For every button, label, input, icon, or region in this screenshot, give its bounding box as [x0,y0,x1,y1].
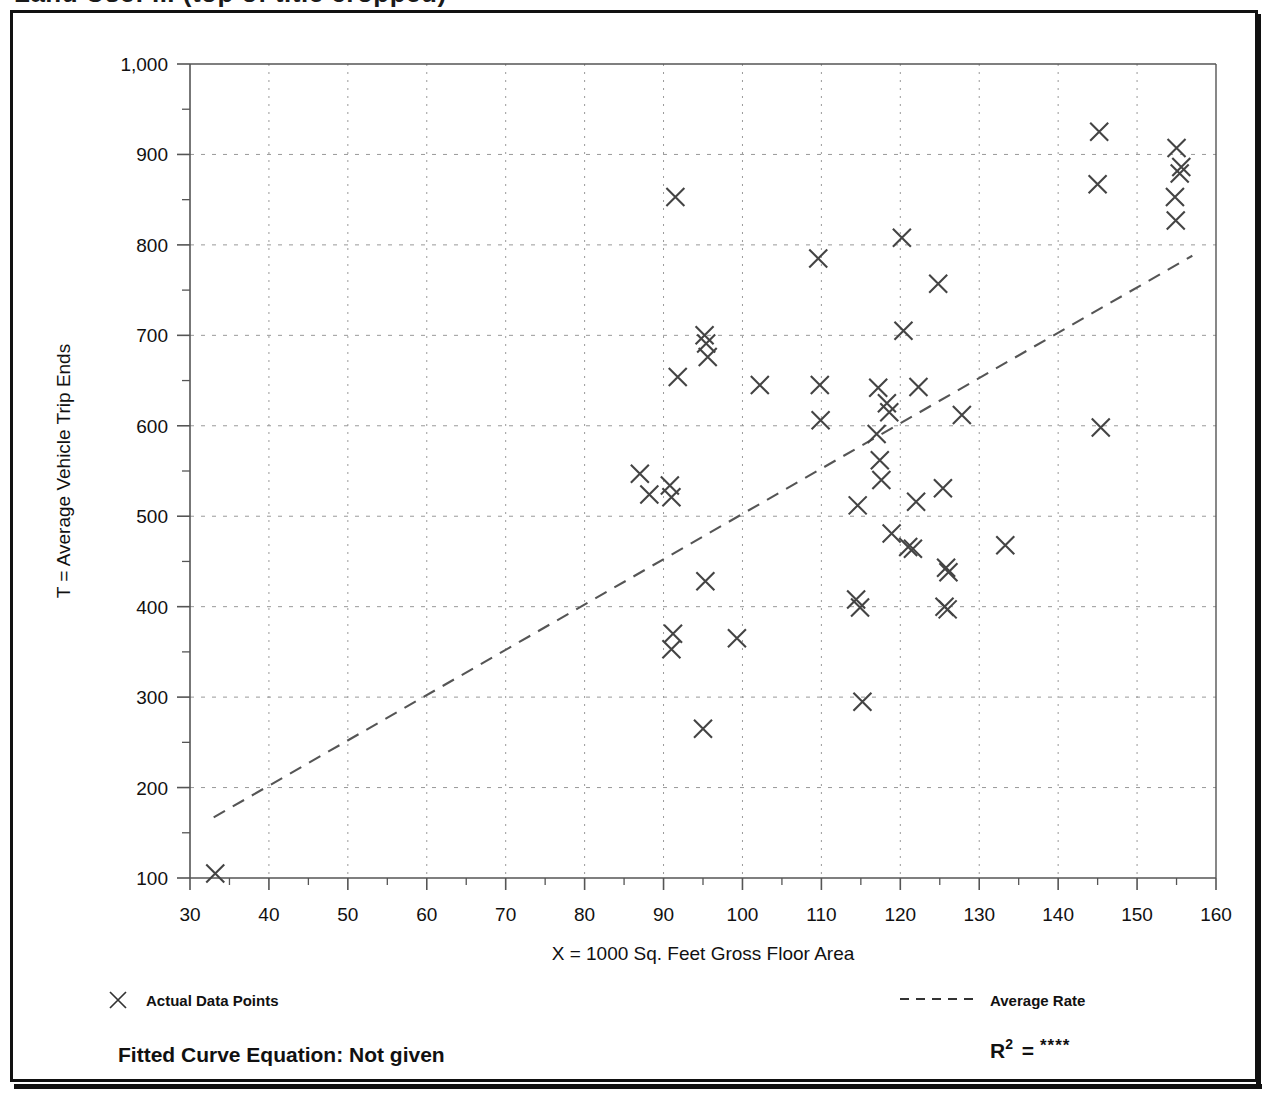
data-point-marker [1090,123,1108,141]
data-point-marker [929,275,947,293]
data-point-marker [1092,419,1110,437]
data-point-marker [1166,188,1184,206]
legend-label-actual-data-points: Actual Data Points [146,992,279,1009]
y-axis-ticks: 1002003004005006007008009001,000 [120,54,190,889]
data-point-marker [669,368,687,386]
y-tick-label: 400 [136,597,168,618]
legend-label-average-rate: Average Rate [990,992,1085,1009]
y-tick-label: 900 [136,144,168,165]
x-tick-label: 110 [806,904,836,925]
data-point-marker [996,536,1014,554]
footer: Fitted Curve Equation: Not givenR2 = ***… [118,1036,1070,1066]
data-point-marker [812,411,830,429]
data-point-marker [893,229,911,247]
fitted-curve-equation: Fitted Curve Equation: Not given [118,1043,445,1066]
data-point-marker [849,496,867,514]
data-point-marker [871,451,889,469]
data-point-marker [853,693,871,711]
y-tick-label: 100 [136,868,168,889]
scatter-chart: 1002003004005006007008009001,00030405060… [0,0,1274,1102]
legend-x-marker-icon [110,992,126,1008]
data-point-marker [1089,175,1107,193]
y-tick-label: 600 [136,416,168,437]
data-point-marker [662,488,680,506]
data-points [206,123,1190,883]
y-axis-title: T = Average Vehicle Trip Ends [53,344,74,598]
x-tick-label: 140 [1042,904,1074,925]
y-tick-label: 500 [136,506,168,527]
plot-container: 1002003004005006007008009001,00030405060… [0,0,1274,1102]
x-tick-label: 160 [1200,904,1232,925]
data-point-marker [206,864,224,882]
data-point-marker [809,249,827,267]
legend: Actual Data PointsAverage Rate [110,992,1085,1009]
x-tick-label: 130 [963,904,995,925]
x-tick-label: 70 [495,904,516,925]
data-point-marker [1171,164,1189,182]
data-point-marker [1168,139,1186,157]
x-axis-title: X = 1000 Sq. Feet Gross Floor Area [552,943,855,964]
x-tick-label: 40 [258,904,279,925]
axis-titles: X = 1000 Sq. Feet Gross Floor AreaT = Av… [53,344,855,964]
data-point-marker [1167,211,1185,229]
data-point-marker [811,376,829,394]
plot-axes [190,64,1216,878]
x-axis-ticks: 30405060708090100110120130140150160 [179,878,1231,925]
data-point-marker [934,479,952,497]
data-point-marker [872,471,890,489]
x-tick-label: 90 [653,904,674,925]
data-point-marker [696,572,714,590]
data-point-marker [894,322,912,340]
data-point-marker [751,376,769,394]
x-tick-label: 100 [727,904,759,925]
x-tick-label: 30 [179,904,200,925]
r-squared-value: R2 = **** [990,1036,1070,1062]
data-point-marker [953,406,971,424]
x-tick-label: 60 [416,904,437,925]
data-point-marker [851,599,869,617]
data-point-marker [662,640,680,658]
data-point-marker [640,486,658,504]
data-point-marker [907,493,925,511]
data-point-marker [1172,158,1190,176]
y-tick-label: 1,000 [120,54,168,75]
data-point-marker [694,720,712,738]
data-point-marker [631,465,649,483]
y-tick-label: 700 [136,325,168,346]
data-point-marker [883,524,901,542]
data-point-marker [666,188,684,206]
x-tick-label: 50 [337,904,358,925]
data-point-marker [699,348,717,366]
y-tick-label: 200 [136,778,168,799]
figure-page: Land Use: ... (top of title cropped) 100… [0,0,1274,1102]
grid-lines [190,64,1216,878]
y-tick-label: 300 [136,687,168,708]
data-point-marker [909,378,927,396]
data-point-marker [728,629,746,647]
x-tick-label: 80 [574,904,595,925]
y-tick-label: 800 [136,235,168,256]
x-tick-label: 120 [884,904,916,925]
x-tick-label: 150 [1121,904,1153,925]
